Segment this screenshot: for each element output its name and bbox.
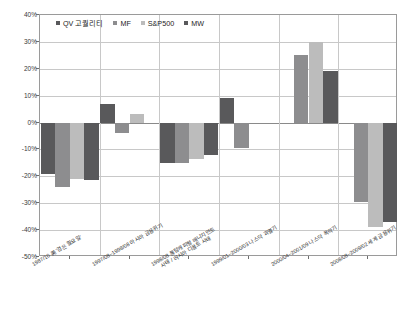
chart-root: 40%30%20%10%0%-10%-20%-30%-40%-50% QV 고퀄… bbox=[0, 0, 412, 318]
x-tick-mark bbox=[188, 256, 189, 259]
x-tick-mark bbox=[367, 256, 368, 259]
x-axis-label-1: 1987/10 美 '검은 월요일' bbox=[31, 234, 83, 268]
x-tick-mark bbox=[248, 256, 249, 259]
x-axis-label-line1: 1998/08 롱텀캐피털 매니지먼트 bbox=[150, 226, 216, 267]
x-axis-label-5: 2000/04~2001/09 나스닥 폭락기 bbox=[270, 224, 338, 267]
x-axis-label-line2: 사태 / 러시아 디폴트 사태 bbox=[153, 231, 219, 273]
x-axis-label-line1: 1987/10 美 '검은 월요일' bbox=[31, 234, 83, 267]
x-axis-label-line1: 2008/08~2009/02 세계 금융위기 bbox=[329, 224, 397, 267]
x-tick-mark bbox=[69, 256, 70, 259]
x-axis-label-line1: 2000/04~2001/09 나스닥 폭락기 bbox=[270, 224, 338, 267]
x-axis-label-3: 1998/08 롱텀캐피털 매니지먼트사태 / 러시아 디폴트 사태 bbox=[150, 226, 219, 273]
x-axis-label-line1: 1999/01~2000/03 나스닥 과열기 bbox=[210, 224, 278, 267]
x-tick-mark bbox=[308, 256, 309, 259]
x-axis-label-6: 2008/08~2009/02 세계 금융위기 bbox=[329, 224, 397, 267]
x-axis-label-4: 1999/01~2000/03 나스닥 과열기 bbox=[210, 224, 278, 267]
x-tick-mark bbox=[129, 256, 130, 259]
x-axis-labels: 1987/10 美 '검은 월요일'1997/08~1998/08 아시아 금융… bbox=[0, 0, 412, 318]
